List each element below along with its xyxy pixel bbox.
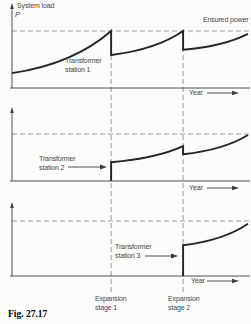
- load-curve-panel-1: [12, 31, 248, 73]
- ensured-power-label: Ensured power: [202, 16, 248, 25]
- transformer-station-2-label: Transformer station 2: [39, 155, 76, 172]
- load-curve-panel-2: [111, 135, 248, 181]
- expansion-stage-2-label: Expansion stage 2: [168, 295, 200, 312]
- y-axis-arrowhead-panel-3: [10, 202, 14, 208]
- expansion-stage-2-line2: stage 2: [168, 304, 200, 313]
- figure-27-17: System load P Ensured power Transformer …: [0, 0, 251, 324]
- year-label-panel-1: Year: [189, 89, 203, 98]
- transformer-station-2-pointer-arrowhead: [100, 165, 107, 170]
- y-axis-symbol: P: [15, 11, 20, 20]
- year-arrowhead-panel-3: [232, 279, 239, 283]
- year-label-panel-3: Year: [191, 277, 205, 286]
- y-axis-arrowhead-panel-2: [10, 107, 14, 113]
- transformer-station-1-line2: station 1: [65, 66, 102, 75]
- transformer-station-3-line2: station 3: [115, 252, 152, 261]
- figure-caption: Fig. 27.17: [8, 309, 47, 319]
- transformer-station-1-label: Transformer station 1: [65, 57, 102, 74]
- transformer-station-3-pointer-arrowhead: [171, 254, 178, 259]
- load-curve-panel-3: [183, 224, 248, 276]
- expansion-stage-1-line2: stage 1: [95, 304, 127, 313]
- y-axis-arrowhead-panel-1: [10, 3, 14, 9]
- year-label-panel-2: Year: [189, 184, 203, 193]
- transformer-station-3-label: Transformer station 3: [115, 243, 152, 260]
- transformer-station-2-line2: station 2: [39, 164, 76, 173]
- plot-canvas: [0, 0, 251, 324]
- year-arrowhead-panel-1: [232, 91, 239, 95]
- expansion-stage-1-label: Expansion stage 1: [95, 295, 127, 312]
- y-axis-title: System load: [17, 2, 54, 11]
- year-arrowhead-panel-2: [232, 186, 239, 190]
